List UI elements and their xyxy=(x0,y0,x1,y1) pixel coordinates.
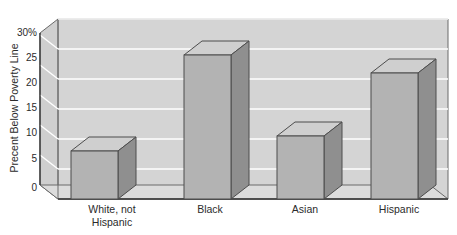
bar-asian xyxy=(277,122,342,199)
bar-black xyxy=(184,41,249,199)
bar-side-face xyxy=(418,59,436,199)
bar-white-not-hispanic xyxy=(71,137,136,199)
y-tick-label-25: 25 xyxy=(26,52,38,63)
bar-front-face xyxy=(71,151,118,199)
bar-front-face xyxy=(277,136,324,199)
x-axis-labels: White, not Hispanic Black Asian Hispanic xyxy=(88,203,419,228)
bar-side-face xyxy=(324,122,342,199)
bar-front-face xyxy=(371,73,418,199)
category-label-white-line2: Hispanic xyxy=(92,216,132,228)
y-tick-label-0: 0 xyxy=(31,182,37,193)
category-label-black: Black xyxy=(197,203,223,215)
bar-side-face xyxy=(231,41,249,199)
chart-canvas: 30% 25 20 15 10 5 0 Precent Below Povert… xyxy=(0,0,457,235)
plot-left-wall xyxy=(40,19,58,199)
poverty-bar-chart: 30% 25 20 15 10 5 0 Precent Below Povert… xyxy=(0,0,457,235)
category-label-hispanic: Hispanic xyxy=(379,203,419,215)
y-axis: 30% 25 20 15 10 5 0 Precent Below Povert… xyxy=(8,27,40,193)
category-label-asian: Asian xyxy=(292,203,318,215)
y-tick-label-15: 15 xyxy=(26,102,38,113)
bar-hispanic xyxy=(371,59,436,199)
y-tick-label-5: 5 xyxy=(31,153,37,164)
y-tick-label-10: 10 xyxy=(26,127,38,138)
category-label-white-line1: White, not xyxy=(88,203,135,215)
y-tick-label-20: 20 xyxy=(26,77,38,88)
bar-front-face xyxy=(184,55,231,199)
y-axis-title: Precent Below Poverty Line xyxy=(8,43,20,172)
y-tick-label-30: 30% xyxy=(17,27,37,38)
